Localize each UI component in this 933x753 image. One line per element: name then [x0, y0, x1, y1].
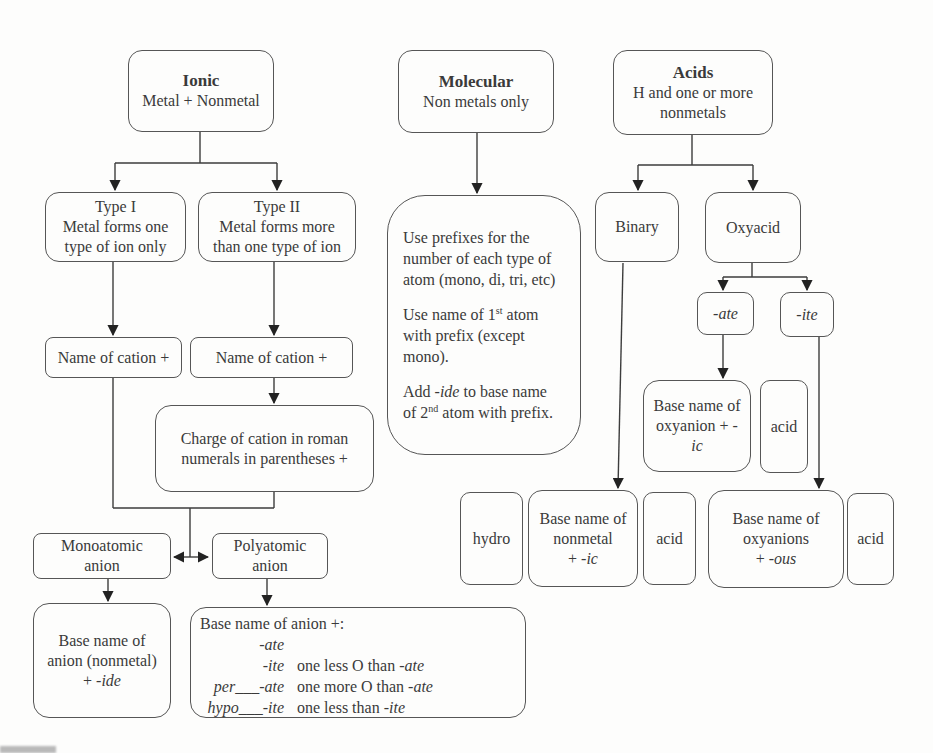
- type1-line1: Type I: [95, 197, 136, 217]
- connector-ionic-split: [115, 132, 277, 163]
- oxyacid-box: Oxyacid: [705, 192, 801, 263]
- scan-artifact: [0, 746, 56, 753]
- anion-rule-row-per-ate: per___-ate one more O than -ate: [191, 676, 525, 697]
- acid-box-middle: acid: [643, 492, 696, 585]
- molecular-rules-box: Use prefixes for the number of each type…: [387, 195, 581, 455]
- arrow-binary-to-nonmetal-ic: [618, 263, 623, 488]
- oxyanions-ous-box: Base name of oxyanions + -ous: [708, 490, 844, 588]
- type2-line3: than one type of ion: [213, 237, 341, 257]
- nonmetal-ic-box: Base name of nonmetal + -ic: [528, 490, 638, 587]
- acids-box: Acids H and one or more nonmetals: [613, 50, 773, 135]
- oxyanion-ic-box: Base name of oxyanion + - ic: [643, 380, 751, 472]
- molecular-rule-prefixes: Use prefixes for the number of each type…: [403, 227, 555, 290]
- connector-oxyacid-split: [723, 263, 807, 277]
- molecular-subtitle: Non metals only: [423, 92, 529, 112]
- binary-box: Binary: [595, 192, 679, 262]
- name-cation-left-box: Name of cation +: [45, 337, 182, 378]
- ionic-subtitle: Metal + Nonmetal: [142, 91, 259, 111]
- anion-suffix-rules-box: Base name of anion +: -ate -ite one less…: [190, 607, 526, 718]
- type2-line1: Type II: [254, 197, 300, 217]
- hydro-box: hydro: [460, 492, 523, 585]
- acids-line3: nonmetals: [660, 103, 726, 123]
- ionic-box: Ionic Metal + Nonmetal: [128, 50, 274, 132]
- anion-rule-row-ite: -ite one less O than -ate: [191, 655, 525, 676]
- molecular-rule-second-atom: Add -ide to base name of 2nd atom with p…: [403, 381, 553, 423]
- type2-line2: Metal forms more: [219, 217, 335, 237]
- oxyacid-label: Oxyacid: [726, 218, 780, 238]
- acid-box-right: acid: [847, 493, 894, 585]
- name-cation-left-label: Name of cation +: [58, 348, 170, 368]
- anion-rule-row-ate: -ate: [191, 634, 525, 655]
- type1-box: Type I Metal forms one type of ion only: [45, 192, 186, 262]
- connector-acids-split: [638, 135, 753, 165]
- molecular-box: Molecular Non metals only: [398, 50, 554, 133]
- ate-label: -ate: [713, 304, 738, 324]
- ite-box: -ite: [780, 292, 834, 337]
- anion-rules-header: Base name of anion +:: [191, 613, 525, 634]
- ionic-title: Ionic: [183, 71, 220, 91]
- charge-roman-numerals-box: Charge of cation in roman numerals in pa…: [155, 405, 374, 492]
- nomenclature-flowchart: Ionic Metal + Nonmetal Molecular Non met…: [0, 0, 933, 753]
- name-cation-right-box: Name of cation +: [190, 337, 353, 378]
- anion-ide-box: Base name of anion (nonmetal) + -ide: [33, 603, 171, 718]
- acid-box-upper: acid: [760, 380, 808, 473]
- monoatomic-anion-box: Monoatomic anion: [33, 533, 171, 579]
- name-cation-right-label: Name of cation +: [216, 348, 328, 368]
- ate-box: -ate: [697, 292, 754, 335]
- acids-title: Acids: [673, 63, 714, 83]
- type2-box: Type II Metal forms more than one type o…: [198, 192, 356, 262]
- anion-rule-row-hypo-ite: hypo___-ite one less than -ite: [191, 697, 525, 718]
- type1-line2: Metal forms one: [63, 217, 169, 237]
- charge-line2: numerals in parentheses +: [181, 449, 348, 469]
- polyatomic-anion-box: Polyatomic anion: [212, 533, 328, 579]
- binary-label: Binary: [615, 217, 659, 237]
- type1-line3: type of ion only: [65, 237, 167, 257]
- acids-line2: H and one or more: [633, 83, 753, 103]
- molecular-title: Molecular: [439, 72, 514, 92]
- charge-line1: Charge of cation in roman: [181, 429, 349, 449]
- ite-label: -ite: [796, 305, 817, 325]
- molecular-rule-first-atom: Use name of 1st atom with prefix (except…: [403, 304, 539, 367]
